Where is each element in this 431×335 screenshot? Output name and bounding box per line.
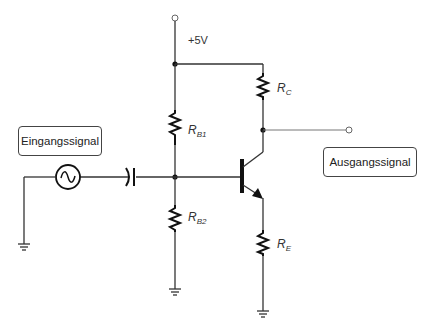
resistor-re xyxy=(258,230,268,311)
output-terminal xyxy=(346,127,352,133)
ground-icon xyxy=(169,289,181,295)
npn-transistor-icon xyxy=(242,130,263,230)
ground-icon xyxy=(18,244,30,250)
input-signal-box: Eingangssignal xyxy=(18,126,102,156)
rb1-label: RB1 xyxy=(188,123,206,139)
ground-icon xyxy=(257,311,269,317)
rc-label: RC xyxy=(277,81,292,97)
resistor-rb2 xyxy=(170,205,180,289)
resistor-rc xyxy=(258,73,268,130)
supply-label: +5V xyxy=(188,34,209,46)
ac-voltage-source-icon xyxy=(56,165,80,189)
resistor-rb1 xyxy=(170,110,180,145)
output-signal-box: Ausgangssignal xyxy=(323,147,417,177)
rb2-label: RB2 xyxy=(188,210,207,226)
re-label: RE xyxy=(277,237,292,253)
supply-terminal xyxy=(172,15,178,64)
